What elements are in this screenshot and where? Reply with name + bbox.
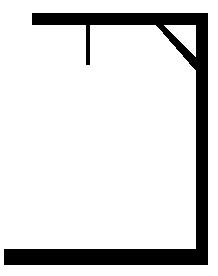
base-beam: [4, 249, 208, 265]
top-beam: [32, 13, 208, 25]
vertical-post: [196, 13, 208, 265]
hanging-rope: [86, 25, 90, 65]
hangman-gallows-drawing: [0, 0, 218, 276]
canvas-background: [0, 0, 218, 276]
